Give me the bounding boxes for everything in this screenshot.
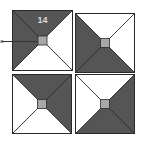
- callout-marker: a: [0, 38, 3, 44]
- tile-label: 14: [37, 16, 47, 25]
- tile-bottom-right: [75, 74, 135, 134]
- center-square: [38, 36, 47, 45]
- tile-bottom-left: [12, 74, 72, 134]
- leader-line: [2, 41, 37, 42]
- center-square: [38, 100, 47, 109]
- center-square: [101, 100, 110, 109]
- center-square: [101, 39, 110, 48]
- tile-top-right: [75, 13, 135, 73]
